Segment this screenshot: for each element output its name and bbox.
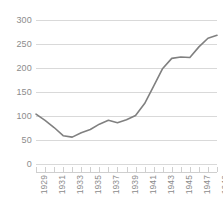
line-chart: 300250200150100500 192919311933193519371…: [0, 0, 223, 207]
y-tick-label: 200: [0, 64, 32, 73]
x-axis-line: [36, 172, 217, 173]
y-tick-label: 0: [0, 160, 32, 169]
x-tick-mark: [36, 167, 37, 172]
x-tick-mark: [136, 167, 137, 172]
x-tick-mark: [127, 167, 128, 172]
x-tick-mark: [217, 167, 218, 172]
x-tick-mark: [108, 167, 109, 172]
x-tick-mark: [190, 167, 191, 172]
x-tick-mark: [90, 167, 91, 172]
y-tick-label: 300: [0, 16, 32, 25]
x-tick-mark: [181, 167, 182, 172]
x-axis-ticks: [36, 167, 217, 172]
y-tick-label: 250: [0, 40, 32, 49]
x-tick-label: 1943: [167, 175, 176, 194]
x-tick-mark: [54, 167, 55, 172]
series-layer: [36, 20, 217, 164]
x-tick-mark: [81, 167, 82, 172]
x-tick-mark: [117, 167, 118, 172]
x-tick-mark: [45, 167, 46, 172]
x-tick-mark: [199, 167, 200, 172]
series-line-gnp: [36, 35, 217, 137]
y-axis: 300250200150100500: [0, 20, 32, 164]
x-tick-label: 1939: [131, 175, 140, 194]
x-tick-label: 1931: [58, 175, 67, 194]
x-tick-mark: [63, 167, 64, 172]
x-tick-mark: [72, 167, 73, 172]
x-tick-mark: [172, 167, 173, 172]
x-tick-label: 1929: [40, 175, 49, 194]
y-tick-label: 100: [0, 112, 32, 121]
x-tick-label: 1949: [221, 175, 223, 194]
x-tick-mark: [145, 167, 146, 172]
x-tick-label: 1937: [112, 175, 121, 194]
plot-area: [36, 20, 217, 164]
x-tick-label: 1935: [94, 175, 103, 194]
x-tick-mark: [99, 167, 100, 172]
x-tick-label: 1945: [185, 175, 194, 194]
x-tick-label: 1933: [76, 175, 85, 194]
x-axis-labels: 1929193119331935193719391941194319451947…: [36, 175, 217, 205]
y-tick-label: 50: [0, 136, 32, 145]
y-tick-label: 150: [0, 88, 32, 97]
x-tick-mark: [154, 167, 155, 172]
x-tick-label: 1947: [203, 175, 212, 194]
x-tick-label: 1941: [149, 175, 158, 194]
x-tick-mark: [208, 167, 209, 172]
x-tick-mark: [163, 167, 164, 172]
gridline: [36, 164, 217, 165]
